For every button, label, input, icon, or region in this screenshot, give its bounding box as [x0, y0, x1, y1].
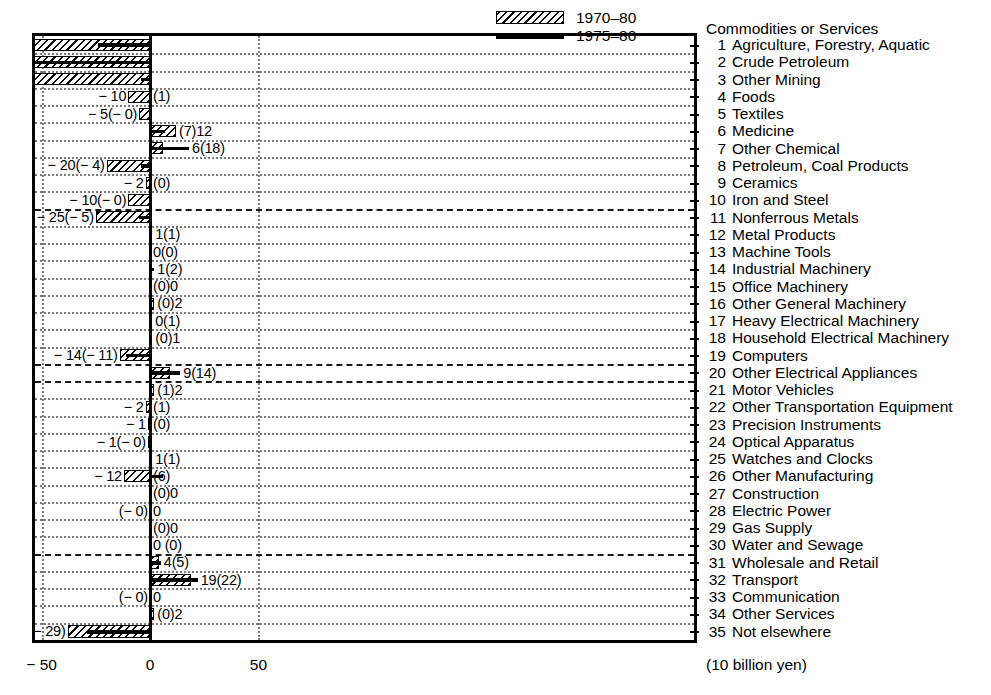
- bar-row: (0)1: [35, 329, 694, 346]
- bar-value-label: 1(2): [157, 262, 182, 277]
- category-number: 19: [700, 347, 726, 364]
- category-tick-mark-icon: [690, 96, 699, 98]
- category-name: Ceramics: [732, 174, 797, 191]
- bar-row: − 10(− 0): [35, 191, 694, 208]
- bar-1970-80: [128, 91, 150, 103]
- bar-value-label: − 12: [94, 469, 122, 484]
- category-list-item: 8Petroleum, Coal Products: [700, 157, 990, 174]
- category-number: 35: [700, 623, 726, 640]
- category-tick-mark-icon: [690, 165, 699, 167]
- category-tick-mark-icon: [690, 355, 699, 357]
- bar-value-label: (0)0: [153, 279, 178, 294]
- bar-row: − 1(0): [35, 416, 694, 433]
- category-tick-mark-icon: [690, 183, 699, 185]
- category-list-item: 26Other Manufacturing: [700, 467, 990, 484]
- bar-value-label: − 38(− 29): [35, 624, 66, 639]
- category-name: Construction: [732, 485, 819, 502]
- legend-item-1970-80: 1970–80: [496, 9, 671, 27]
- category-tick-mark-icon: [690, 545, 699, 547]
- category-number: 22: [700, 398, 726, 415]
- bar-value-label: 0(1): [155, 314, 180, 329]
- category-list-item: 28Electric Power: [700, 502, 990, 519]
- category-tick-mark-icon: [690, 79, 699, 81]
- bar-row: (0)2: [35, 295, 694, 312]
- bar-row: 4(5): [35, 554, 694, 571]
- bar-row: 1(1): [35, 226, 694, 243]
- legend-label-1975-80: 1975–80: [576, 27, 636, 45]
- category-list-item: 1Agriculture, Forestry, Aquatic: [700, 36, 990, 53]
- bar-value-label: 19(22): [201, 573, 242, 588]
- bar-value-label-secondary: (0): [153, 417, 170, 432]
- category-name: Agriculture, Forestry, Aquatic: [732, 36, 930, 53]
- category-number: 34: [700, 605, 726, 622]
- category-number: 7: [700, 140, 726, 157]
- category-name: Industrial Machinery: [732, 260, 871, 277]
- category-number: 3: [700, 71, 726, 88]
- bar-row: − 25(− 5): [35, 209, 694, 226]
- bar-row: 0(1): [35, 312, 694, 329]
- category-name: Computers: [732, 347, 808, 364]
- category-list-item: 18Household Electrical Machinery: [700, 329, 990, 346]
- bar-value-label: − 10: [99, 89, 127, 104]
- bar-row: (1)2: [35, 381, 694, 398]
- bar-row: 6(18): [35, 140, 694, 157]
- bar-value-label: (0)2: [157, 607, 182, 622]
- bar-value-label-secondary: 0: [153, 504, 161, 519]
- chart-plot-inner: − 84(− 24)− 128(− 53)− 62(− 4)− 10(1)− 5…: [35, 36, 694, 640]
- category-name: Other General Machinery: [732, 295, 906, 312]
- legend-swatch-solid-icon: [496, 33, 564, 39]
- category-list-item: 7Other Chemical: [700, 140, 990, 157]
- category-number: 5: [700, 105, 726, 122]
- bar-1975-80: [150, 371, 180, 374]
- category-name: Communication: [732, 588, 840, 605]
- bar-value-label-secondary: 0: [153, 590, 161, 605]
- category-number: 20: [700, 364, 726, 381]
- category-number: 6: [700, 122, 726, 139]
- bar-value-label: − 2: [124, 176, 144, 191]
- category-number: 28: [700, 502, 726, 519]
- category-list-item: 34Other Services: [700, 605, 990, 622]
- bar-value-label: − 14(− 11): [54, 348, 118, 363]
- x-axis-tick-label: 0: [146, 656, 155, 674]
- bar-1975-80: [35, 61, 150, 64]
- category-tick-mark-icon: [690, 614, 699, 616]
- category-tick-mark-icon: [690, 338, 699, 340]
- category-tick-mark-icon: [690, 476, 699, 478]
- bar-row: (− 0)0: [35, 502, 694, 519]
- category-tick-mark-icon: [690, 303, 699, 305]
- x-axis-unit-label: (10 billion yen): [706, 656, 807, 674]
- category-number: 14: [700, 260, 726, 277]
- category-number: 27: [700, 485, 726, 502]
- category-name: Watches and Clocks: [732, 450, 873, 467]
- bar-row: 1(2): [35, 260, 694, 277]
- category-name: Metal Products: [732, 226, 835, 243]
- category-name: Iron and Steel: [732, 191, 829, 208]
- bar-value-label: 0 (0): [153, 538, 182, 553]
- category-number: 29: [700, 519, 726, 536]
- bar-row: − 20(− 4): [35, 157, 694, 174]
- category-name: Other Transportation Equipment: [732, 398, 953, 415]
- category-list-item: 20Other Electrical Appliances: [700, 364, 990, 381]
- category-number: 30: [700, 536, 726, 553]
- category-list-item: 32Transport: [700, 571, 990, 588]
- bar-row: − 1(− 0): [35, 433, 694, 450]
- category-name: Office Machinery: [732, 278, 848, 295]
- bar-value-label: (7)12: [179, 124, 212, 139]
- category-list-item: 31Wholesale and Retail: [700, 554, 990, 571]
- bar-value-label: − 1: [126, 417, 146, 432]
- category-tick-mark-icon: [690, 252, 699, 254]
- category-name: Crude Petroleum: [732, 53, 849, 70]
- bar-row: 0 (0): [35, 536, 694, 553]
- category-name: Nonferrous Metals: [732, 209, 859, 226]
- category-name: Gas Supply: [732, 519, 812, 536]
- bar-value-label: (1)2: [157, 383, 182, 398]
- category-name: Motor Vehicles: [732, 381, 834, 398]
- category-number: 24: [700, 433, 726, 450]
- category-tick-mark-icon: [690, 131, 699, 133]
- bar-row: (0)0: [35, 278, 694, 295]
- legend-item-1975-80: 1975–80: [496, 27, 671, 45]
- category-tick-mark-icon: [690, 200, 699, 202]
- bar-value-label: 9(14): [183, 366, 216, 381]
- bar-1975-80: [126, 354, 150, 357]
- bar-row: 1(1): [35, 450, 694, 467]
